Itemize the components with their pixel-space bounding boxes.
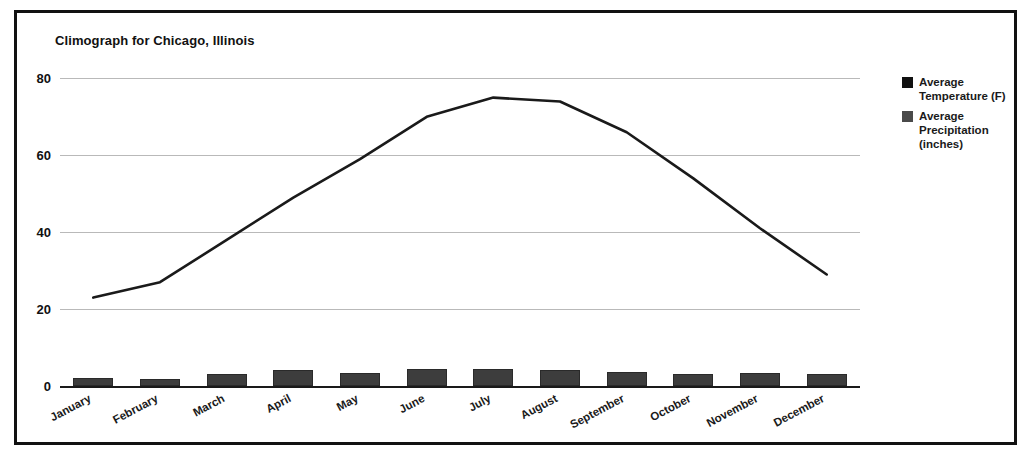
- y-tick-label-0: 0: [44, 379, 51, 394]
- x-tick-label: September: [568, 392, 626, 430]
- chart-frame: Climograph for Chicago, Illinois 0204060…: [14, 10, 1017, 445]
- y-tick-label-40: 40: [37, 225, 51, 240]
- x-tick-label: January: [48, 392, 93, 423]
- x-tick-label: August: [519, 392, 560, 421]
- x-tick-label: June: [397, 392, 426, 415]
- plot-area: 020406080: [60, 63, 860, 386]
- y-tick-label-80: 80: [37, 71, 51, 86]
- x-tick-label: December: [772, 392, 827, 429]
- temperature-line-series: [60, 63, 860, 386]
- x-tick-label: May: [334, 392, 359, 413]
- x-tick-label: November: [704, 392, 759, 429]
- y-tick-label-60: 60: [37, 148, 51, 163]
- x-tick-label: March: [191, 392, 227, 418]
- x-tick-label: April: [264, 392, 293, 415]
- y-tick-label-20: 20: [37, 302, 51, 317]
- x-axis-labels: JanuaryFebruaryMarchAprilMayJuneJulyAugu…: [60, 386, 860, 446]
- x-tick-label: October: [648, 392, 693, 423]
- x-tick-label: July: [467, 392, 493, 413]
- legend-swatch-temperature: [902, 77, 913, 88]
- chart-legend: Average Temperature (F)Average Precipita…: [902, 75, 1020, 157]
- legend-entry-temperature[interactable]: Average Temperature (F): [902, 75, 1020, 103]
- legend-entry-precipitation[interactable]: Average Precipitation (inches): [902, 109, 1020, 151]
- chart-title: Climograph for Chicago, Illinois: [55, 33, 255, 48]
- legend-label: Average Precipitation (inches): [919, 109, 1020, 151]
- x-tick-label: February: [111, 392, 160, 426]
- legend-label: Average Temperature (F): [919, 75, 1020, 103]
- temperature-polyline: [93, 98, 826, 298]
- legend-swatch-precipitation: [902, 111, 913, 122]
